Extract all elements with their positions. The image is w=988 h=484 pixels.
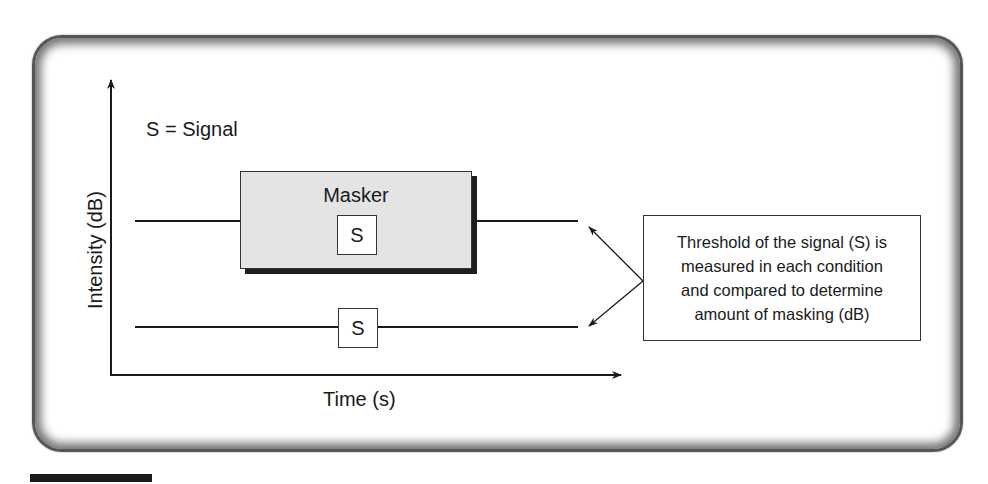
callout-arrow-upper <box>589 227 643 281</box>
callout-line: measured in each condition <box>681 254 883 278</box>
masker-label: Masker <box>241 184 471 207</box>
signal-box-in-masker: S <box>337 215 377 255</box>
legend-text: S = Signal <box>146 118 238 141</box>
callout-line: and compared to determine <box>681 278 883 302</box>
callout-line: Threshold of the signal (S) is <box>677 230 887 254</box>
y-axis-label: Intensity (dB) <box>84 191 107 309</box>
masker-box: Masker S <box>240 171 472 269</box>
decorative-bar <box>30 474 152 482</box>
x-axis-label: Time (s) <box>323 388 396 411</box>
callout-box: Threshold of the signal (S) is measured … <box>643 215 921 341</box>
callout-line: amount of masking (dB) <box>694 302 869 326</box>
callout-arrow-lower <box>589 281 643 326</box>
signal-box-alone: S <box>338 308 378 348</box>
